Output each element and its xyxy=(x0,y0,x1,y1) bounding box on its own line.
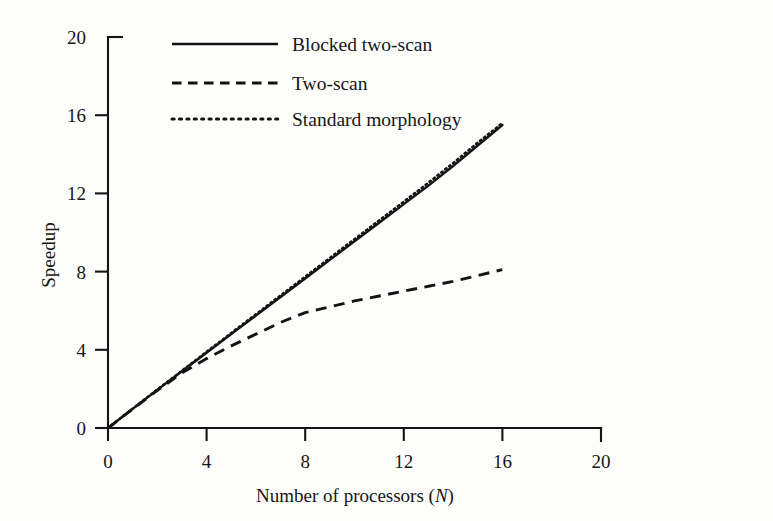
x-tick-label-20: 20 xyxy=(592,451,611,472)
chart-background xyxy=(0,0,773,521)
y-tick-label-4: 4 xyxy=(77,340,87,361)
y-tick-label-0: 0 xyxy=(77,418,87,439)
y-tick-label-8: 8 xyxy=(77,262,87,283)
y-axis-title: Speedup xyxy=(38,222,59,287)
x-axis-title: Number of processors (N) xyxy=(256,485,454,507)
x-axis-title-prefix: Number of processors ( xyxy=(256,485,435,507)
x-tick-label-4: 4 xyxy=(202,451,212,472)
legend-label-two-scan: Two-scan xyxy=(292,73,368,94)
y-tick-label-12: 12 xyxy=(67,183,86,204)
x-tick-label-8: 8 xyxy=(300,451,310,472)
legend-label-standard-morphology: Standard morphology xyxy=(292,109,462,130)
speedup-line-chart: 048121620 048121620 Blocked two-scan Two… xyxy=(0,0,773,521)
x-axis-title-suffix: ) xyxy=(448,485,454,507)
figure-container: 048121620 048121620 Blocked two-scan Two… xyxy=(0,0,773,521)
x-tick-label-16: 16 xyxy=(493,451,512,472)
x-tick-label-0: 0 xyxy=(103,451,113,472)
x-tick-label-12: 12 xyxy=(394,451,413,472)
y-tick-label-16: 16 xyxy=(67,105,86,126)
legend-label-blocked-two-scan: Blocked two-scan xyxy=(292,34,433,55)
y-tick-label-20: 20 xyxy=(67,27,86,48)
